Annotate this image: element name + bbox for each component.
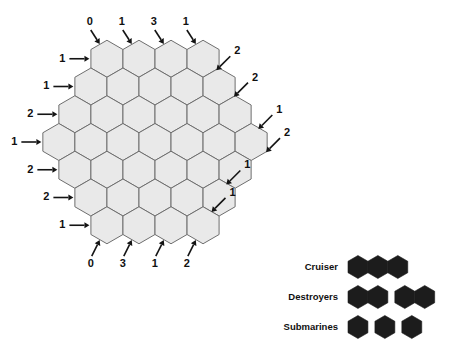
top-clue-label-1: 1 [119, 15, 125, 27]
hex-puzzle-figure: 013111212212212110312 CruiserDestroyersS… [0, 0, 452, 351]
bottom-clue-arrow-2 [156, 240, 165, 256]
ship-marker-0-0-2[interactable] [388, 256, 408, 279]
right-clue-arrow-2 [258, 115, 272, 129]
legend-label-0: Cruiser [305, 261, 339, 272]
fleet-legend-layer: CruiserDestroyersSubmarines [284, 256, 435, 339]
left-clue-arrow-5 [53, 194, 73, 200]
left-clue-label-3: 1 [11, 135, 17, 147]
left-clue-label-6: 1 [59, 218, 65, 230]
bottom-clue-label-1: 3 [120, 257, 126, 269]
bottom-clue-label-3: 2 [184, 257, 190, 269]
legend-row-1: Destroyers [288, 286, 434, 309]
top-clue-arrow-0 [91, 30, 100, 44]
top-clue-label-2: 3 [151, 15, 157, 27]
top-clue-label-3: 1 [183, 15, 189, 27]
legend-label-1: Destroyers [288, 291, 338, 302]
legend-label-2: Submarines [284, 321, 338, 332]
ship-marker-1-1-1[interactable] [415, 286, 435, 309]
left-clue-arrow-1 [53, 83, 73, 89]
right-clue-arrow-1 [234, 83, 248, 97]
right-clue-label-4: 1 [244, 158, 250, 170]
right-clue-arrow-3 [266, 138, 280, 152]
top-clue-arrow-2 [155, 30, 164, 44]
left-clue-arrow-4 [37, 167, 57, 173]
legend-row-0: Cruiser [305, 256, 408, 279]
hex-grid[interactable] [43, 40, 267, 244]
right-clue-label-0: 2 [234, 44, 240, 56]
ship-marker-0-0-1[interactable] [368, 256, 388, 279]
left-clue-arrow-0 [69, 56, 89, 62]
top-clue-arrow-3 [187, 30, 196, 44]
left-clue-label-4: 2 [27, 163, 33, 175]
bottom-clue-arrow-1 [124, 240, 133, 256]
top-clue-arrow-1 [123, 30, 132, 44]
bottom-clue-arrow-0 [92, 240, 101, 256]
left-clue-label-2: 2 [27, 107, 33, 119]
right-clue-label-5: 1 [229, 186, 235, 198]
figure-root: 013111212212212110312 CruiserDestroyersS… [0, 0, 452, 351]
left-clue-label-1: 1 [43, 79, 49, 91]
ship-marker-0-0-0[interactable] [348, 256, 368, 279]
ship-marker-2-2-0[interactable] [402, 316, 422, 339]
bottom-clue-label-0: 0 [88, 257, 94, 269]
left-clue-label-0: 1 [59, 52, 65, 64]
ship-marker-1-0-1[interactable] [368, 286, 388, 309]
ship-marker-2-0-0[interactable] [348, 316, 368, 339]
ship-marker-2-1-0[interactable] [375, 316, 395, 339]
right-clue-label-2: 1 [276, 103, 282, 115]
bottom-clue-arrow-3 [188, 240, 197, 256]
top-clue-label-0: 0 [87, 15, 93, 27]
right-clue-label-1: 2 [252, 71, 258, 83]
left-clue-arrow-3 [21, 139, 41, 145]
left-clue-arrow-6 [69, 222, 89, 228]
right-clue-label-3: 2 [284, 126, 290, 138]
ship-marker-1-1-0[interactable] [395, 286, 415, 309]
left-clue-label-5: 2 [43, 190, 49, 202]
legend-row-2: Submarines [284, 316, 422, 339]
bottom-clue-label-2: 1 [152, 257, 158, 269]
ship-marker-1-0-0[interactable] [348, 286, 368, 309]
left-clue-arrow-2 [37, 111, 57, 117]
